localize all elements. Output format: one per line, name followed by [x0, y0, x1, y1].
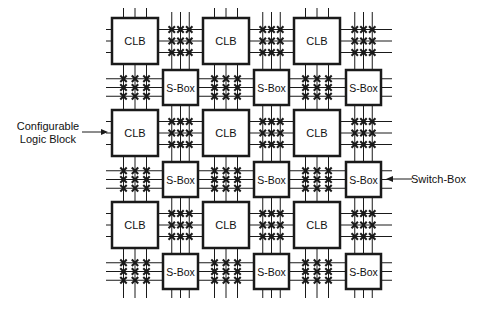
- sbox-label: S-Box: [166, 174, 195, 186]
- sbox-label: S-Box: [349, 82, 378, 94]
- clb-label: CLB: [215, 219, 236, 231]
- clb-label: CLB: [215, 35, 236, 47]
- clb-label: CLB: [306, 127, 327, 139]
- annotation-line-2: Logic Block: [8, 133, 88, 146]
- clb-label: CLB: [124, 127, 145, 139]
- clb-label: CLB: [124, 219, 145, 231]
- sbox-label: S-Box: [257, 82, 286, 94]
- sbox-arrowhead-icon: [386, 176, 393, 182]
- fpga-architecture-diagram: CLBCLBCLBCLBCLBCLBCLBCLBCLBS-BoxS-BoxS-B…: [0, 0, 486, 316]
- clb-arrowhead-icon: [101, 129, 108, 135]
- annotation-line-1: Configurable: [8, 120, 88, 133]
- clb-label: CLB: [215, 127, 236, 139]
- switch-box-annotation: Switch-Box: [411, 173, 466, 186]
- sbox-label: S-Box: [257, 266, 286, 278]
- sbox-label: S-Box: [349, 266, 378, 278]
- clb-label: CLB: [306, 219, 327, 231]
- sbox-label: S-Box: [166, 82, 195, 94]
- clb-label: CLB: [124, 35, 145, 47]
- clb-label: CLB: [306, 35, 327, 47]
- sbox-label: S-Box: [257, 174, 286, 186]
- sbox-label: S-Box: [349, 174, 378, 186]
- configurable-logic-block-annotation: Configurable Logic Block: [8, 120, 88, 146]
- sbox-label: S-Box: [166, 266, 195, 278]
- logic-blocks: CLBCLBCLBCLBCLBCLBCLBCLBCLBS-BoxS-BoxS-B…: [112, 18, 381, 289]
